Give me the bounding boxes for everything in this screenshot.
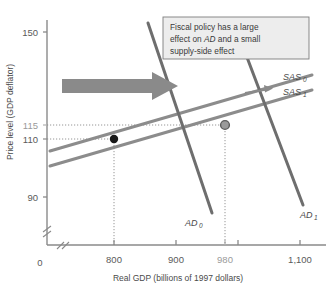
y-ticks: 150 115 110 90 <box>22 27 47 203</box>
ad1-label-subscript: 1 <box>314 214 318 221</box>
note-line-2: effect on AD and a small <box>170 34 260 44</box>
fiscal-policy-note: Fiscal policy has a large effect on AD a… <box>163 17 309 59</box>
sas0-label: SAS <box>283 72 301 82</box>
ad-shift-arrow-icon <box>62 72 178 100</box>
x-ticks: 0 800 900 980 1,100 <box>37 240 312 268</box>
ad0-label: AD <box>184 218 198 228</box>
y-tick-label-115: 115 <box>23 120 38 131</box>
x-tick-label-1100: 1,100 <box>288 254 312 265</box>
y-tick-label-90: 90 <box>27 192 38 203</box>
note-line-2-a: effect on <box>170 34 204 44</box>
x-tick-label-980: 980 <box>217 254 233 265</box>
y-tick-label-110: 110 <box>23 134 38 145</box>
curve-labels: SAS 0 SAS 1 AD 0 AD 1 <box>184 72 318 229</box>
chart-svg: 150 115 110 90 0 800 900 980 1,100 Real … <box>0 0 334 290</box>
sas0-label-subscript: 0 <box>303 76 307 83</box>
sas1-label: SAS <box>283 87 301 97</box>
x-tick-label-800: 800 <box>106 254 122 265</box>
equilibrium-point-1 <box>221 121 230 130</box>
y-axis-title: Price level (GDP deflator) <box>5 64 15 160</box>
note-line-2-emphasis: AD <box>203 34 216 44</box>
ad0-label-subscript: 0 <box>199 222 203 229</box>
ad1-label: AD <box>299 210 313 220</box>
note-line-1: Fiscal policy has a large <box>170 22 259 32</box>
y-tick-label-150: 150 <box>22 27 38 38</box>
x-tick-label-0: 0 <box>37 257 42 268</box>
x-tick-label-900: 900 <box>168 254 184 265</box>
sas1-label-subscript: 1 <box>303 91 307 98</box>
note-line-3: supply-side effect <box>170 46 235 56</box>
x-axis-title: Real GDP (billions of 1997 dollars) <box>113 273 243 283</box>
equilibrium-point-0 <box>110 135 118 143</box>
note-line-2-b: and a small <box>216 34 261 44</box>
ad-sas-figure: 150 115 110 90 0 800 900 980 1,100 Real … <box>0 0 334 290</box>
